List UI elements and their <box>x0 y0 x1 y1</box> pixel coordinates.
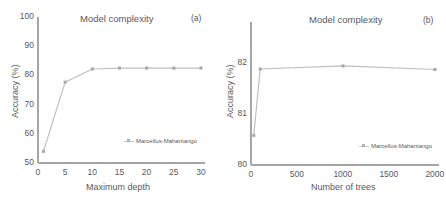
legend-label-b: Marcellus-Mahantango <box>371 143 432 149</box>
chart-title-b: Model complexity <box>309 14 382 25</box>
x-tick-label: 25 <box>169 167 178 177</box>
data-point-marker <box>91 67 94 70</box>
panel-label-a: (a) <box>191 13 201 23</box>
y-tick-label: 90 <box>25 40 34 50</box>
y-tick-label: 70 <box>25 99 34 109</box>
legend-marker-icon <box>359 146 369 147</box>
legend-b: Marcellus-Mahantango <box>359 143 432 149</box>
series-line <box>254 66 435 135</box>
x-tick-label: 5 <box>63 167 68 177</box>
chart-title-a: Model complexity <box>80 13 153 24</box>
data-point-marker <box>42 150 45 153</box>
x-tick-label: 0 <box>249 169 254 179</box>
data-point-marker <box>434 68 437 71</box>
data-point-marker <box>259 67 262 70</box>
legend-a: Marcellus-Mahantango <box>124 138 197 144</box>
data-point-marker <box>200 67 203 70</box>
data-point-marker <box>145 67 148 70</box>
y-tick-label: 80 <box>238 159 247 169</box>
x-tick-label: 1500 <box>379 169 398 179</box>
data-point-marker <box>64 81 67 84</box>
y-tick-label: 100 <box>20 11 34 21</box>
x-axis-label-a: Maximum depth <box>86 182 150 192</box>
x-tick-label: 0 <box>36 167 41 177</box>
y-tick-label: 50 <box>25 157 34 167</box>
x-axis-label-b: Number of trees <box>311 182 376 192</box>
x-tick-label: 1000 <box>333 169 352 179</box>
y-axis-label-a: Accuracy (%) <box>10 64 20 118</box>
chart-panel-a: Model complexity (a) Maximum depth Accur… <box>0 0 223 202</box>
legend-marker-icon <box>124 141 134 142</box>
x-tick-label: 15 <box>115 167 124 177</box>
x-tick-label: 2000 <box>425 169 444 179</box>
data-point-marker <box>252 134 255 137</box>
y-tick-label: 81 <box>238 108 247 118</box>
y-tick-label: 60 <box>25 128 34 138</box>
x-tick-label: 500 <box>290 169 304 179</box>
legend-label-a: Marcellus-Mahantango <box>136 138 197 144</box>
x-tick-label: 20 <box>142 167 151 177</box>
y-tick-label: 82 <box>238 57 247 67</box>
chart-panel-b: Model complexity (b) Number of trees Acc… <box>223 0 446 202</box>
data-point-marker <box>342 64 345 67</box>
data-point-marker <box>172 67 175 70</box>
y-axis-label-b: Accuracy (%) <box>225 64 235 118</box>
x-tick-label: 10 <box>88 167 97 177</box>
y-tick-label: 80 <box>25 69 34 79</box>
x-tick-label: 30 <box>196 167 205 177</box>
data-point-marker <box>118 67 121 70</box>
panel-label-b: (b) <box>423 15 433 25</box>
